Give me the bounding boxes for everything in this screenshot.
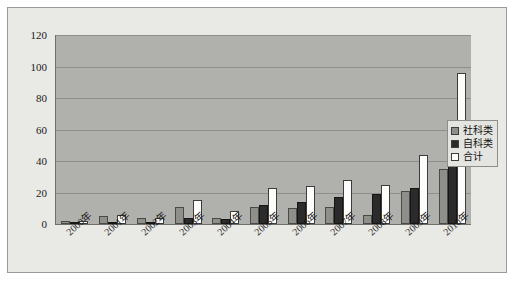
bar-0 [439,169,448,224]
y-axis: 020406080100120 [8,8,52,272]
plot-area [55,35,471,225]
y-axis-tick-label: 20 [36,187,47,199]
chart-figure: 020406080100120 2000年2001年2002年2003年2004… [0,0,516,284]
bar-group [320,35,358,224]
x-axis: 2000年2001年2002年2003年2004年2005年2006年2007年… [55,225,470,273]
y-axis-tick-label: 120 [31,29,48,41]
legend-item: 自科类 [451,137,493,150]
legend-swatch-icon [451,127,459,135]
figure-frame: 020406080100120 2000年2001年2002年2003年2004… [7,7,507,273]
legend-item: 合计 [451,150,493,163]
legend-swatch-icon [451,153,459,161]
bar-group [131,35,169,224]
y-axis-tick-label: 80 [36,92,47,104]
legend-label: 合计 [463,151,483,162]
legend-label: 自科类 [463,138,493,149]
legend-label: 社科类 [463,125,493,136]
y-axis-tick-label: 0 [42,218,48,230]
bar-group [396,35,434,224]
bar-group [245,35,283,224]
y-axis-tick-label: 100 [31,61,48,73]
bar-group [169,35,207,224]
bar-group [56,35,94,224]
bar-group [94,35,132,224]
y-axis-tick-label: 60 [36,124,47,136]
bar-group [282,35,320,224]
y-axis-tick-label: 40 [36,155,47,167]
legend-item: 社科类 [451,124,493,137]
legend-swatch-icon [451,140,459,148]
bar-group [207,35,245,224]
bar-group [358,35,396,224]
chart-legend: 社科类自科类合计 [447,120,498,167]
